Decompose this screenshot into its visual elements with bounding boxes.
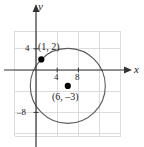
x-axis-label: x bbox=[134, 64, 139, 75]
x-tick-label-8: 8 bbox=[75, 73, 80, 82]
point-marker-on-circle bbox=[38, 56, 44, 62]
annotation-center-point: (6, –3) bbox=[52, 92, 79, 102]
graph-canvas bbox=[0, 0, 144, 147]
annotation-point-on-circle: (1, 2) bbox=[38, 42, 60, 52]
point-marker-center bbox=[65, 83, 71, 89]
x-axis-arrowhead bbox=[124, 67, 132, 74]
y-axis-label: y bbox=[38, 1, 43, 12]
coordinate-plane-figure: y x 4 –8 4 8 (1, 2) (6, –3) bbox=[0, 0, 144, 147]
y-tick-label-4: 4 bbox=[25, 44, 30, 53]
x-tick-label-4: 4 bbox=[54, 73, 59, 82]
y-tick-label-minus-8: –8 bbox=[17, 108, 26, 117]
